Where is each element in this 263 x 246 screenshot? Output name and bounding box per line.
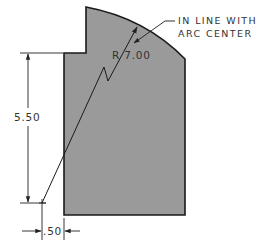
height-dimension-label: 5.50 (14, 111, 41, 123)
note-line-2: ARC CENTER (178, 28, 252, 39)
radius-label: R 7.00 (112, 49, 151, 61)
part-shape (64, 7, 185, 215)
offset-dimension-label: .50 (43, 225, 62, 237)
note-line-1: IN LINE WITH (178, 15, 257, 26)
technical-drawing: 5.50 .50 R 7.00 IN LINE WITH ARC CENTER (0, 0, 263, 246)
